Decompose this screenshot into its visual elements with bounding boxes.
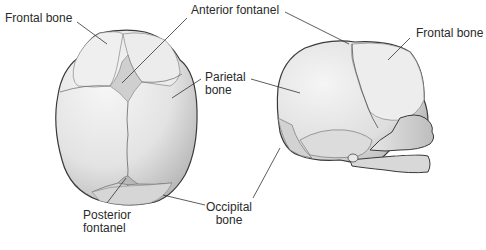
- label-parietal-line2: bone: [205, 84, 246, 97]
- label-frontal-bone-right: Frontal bone: [416, 27, 483, 40]
- label-occipital-bone: Occipital bone: [206, 201, 252, 227]
- label-posterior-line2: fontanel: [83, 222, 131, 235]
- lateral-view-skull: [277, 41, 433, 173]
- label-frontal-bone-left: Frontal bone: [5, 12, 72, 25]
- label-occipital-line2: bone: [206, 214, 252, 227]
- leader-occipital-top: [163, 195, 205, 205]
- leader-occipital-lateral: [253, 148, 280, 198]
- label-parietal-bone: Parietal bone: [205, 71, 246, 97]
- leader-anterior-fontanel-lateral: [285, 12, 349, 44]
- label-anterior-fontanel: Anterior fontanel: [191, 4, 279, 17]
- superior-view-skull: [56, 30, 197, 205]
- label-posterior-fontanel: Posterior fontanel: [83, 209, 131, 235]
